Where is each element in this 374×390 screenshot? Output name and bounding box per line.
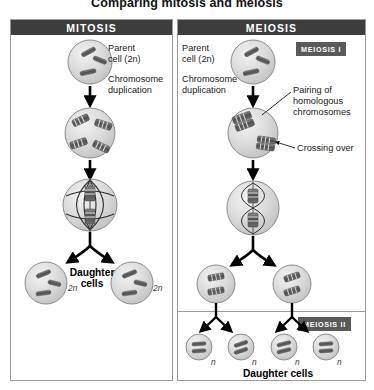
label-meiosis-crossing-over: Crossing over: [297, 143, 354, 154]
ploidy-meiosis-daughter-2: n: [252, 357, 257, 367]
badge-meiosis-one: MEIOSIS I: [296, 42, 346, 56]
meiosis-phase-divider: [178, 311, 365, 312]
ploidy-mitosis-daughter-right: 2n: [153, 283, 162, 293]
label-mitosis-parent-cell: Parent cell (2n): [108, 43, 141, 65]
panel-header-meiosis: MEIOSIS: [178, 20, 365, 35]
ploidy-mitosis-daughter-left: 2n: [68, 283, 77, 293]
ploidy-meiosis-daughter-4: n: [337, 357, 342, 367]
label-meiosis-parent-cell: Parent cell (2n): [182, 43, 215, 65]
panel-header-mitosis: MITOSIS: [11, 20, 172, 35]
label-mitosis-chromosome-duplication: Chromosome duplication: [108, 74, 163, 96]
figure-title: Comparing mitosis and meiosis: [0, 0, 374, 10]
label-meiosis-daughter-cells: Daughter cells: [228, 368, 328, 379]
badge-meiosis-two: MEIOSIS II: [298, 317, 351, 331]
label-meiosis-pairing-homologous: Pairing of homologous chromosomes: [293, 85, 351, 118]
ploidy-meiosis-daughter-3: n: [295, 357, 300, 367]
ploidy-meiosis-daughter-1: n: [211, 357, 216, 367]
label-meiosis-chromosome-duplication: Chromosome duplication: [182, 74, 237, 96]
